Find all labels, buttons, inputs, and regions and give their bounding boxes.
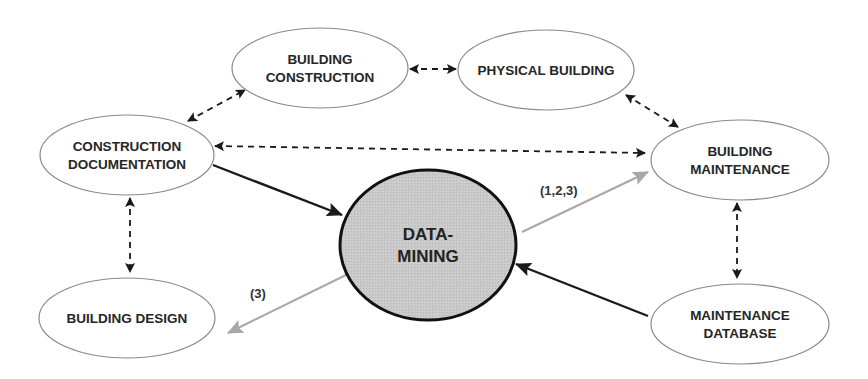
nodes: BUILDINGCONSTRUCTIONPHYSICAL BUILDINGCON… — [39, 28, 829, 364]
node-label: CONSTRUCTION — [266, 70, 375, 85]
node-label: BUILDING DESIGN — [67, 311, 188, 326]
center-node-shape — [340, 170, 516, 320]
node-label: MAINTENANCE — [690, 162, 790, 177]
node-building-maintenance: BUILDINGMAINTENANCE — [651, 120, 829, 200]
node-shape — [40, 115, 214, 195]
node-data-mining: DATA-MINING — [340, 170, 516, 320]
edge-physical-building-to-building-maintenance — [626, 95, 678, 127]
edge-data-mining-to-building-design — [228, 274, 348, 333]
node-label: DATABASE — [704, 326, 777, 341]
node-maintenance-database: MAINTENANCEDATABASE — [651, 284, 829, 364]
edge-label: (1,2,3) — [540, 183, 578, 198]
node-label: PHYSICAL BUILDING — [477, 63, 614, 78]
edge-construction-documentation-to-building-construction — [188, 90, 245, 121]
node-label: DOCUMENTATION — [68, 157, 186, 172]
diagram: BUILDINGCONSTRUCTIONPHYSICAL BUILDINGCON… — [0, 0, 868, 379]
node-shape — [651, 284, 829, 364]
diagram-canvas: BUILDINGCONSTRUCTIONPHYSICAL BUILDINGCON… — [0, 0, 868, 379]
node-construction-documentation: CONSTRUCTIONDOCUMENTATION — [40, 115, 214, 195]
edge-construction-documentation-to-data-mining — [213, 165, 342, 215]
node-shape — [232, 28, 408, 108]
node-label: BUILDING — [707, 144, 772, 159]
edge-label: (3) — [250, 286, 266, 301]
node-label: MINING — [397, 247, 458, 266]
node-physical-building: PHYSICAL BUILDING — [458, 30, 634, 110]
node-building-design: BUILDING DESIGN — [39, 278, 215, 358]
node-label: CONSTRUCTION — [73, 139, 182, 154]
edge-construction-documentation-to-building-maintenance — [215, 146, 645, 153]
node-label: MAINTENANCE — [690, 308, 790, 323]
edge-data-mining-to-building-maintenance — [522, 172, 648, 232]
edge-maintenance-database-to-data-mining — [516, 264, 648, 316]
node-label: BUILDING — [287, 52, 352, 67]
node-shape — [651, 120, 829, 200]
node-label: DATA- — [403, 225, 453, 244]
node-building-construction: BUILDINGCONSTRUCTION — [232, 28, 408, 108]
